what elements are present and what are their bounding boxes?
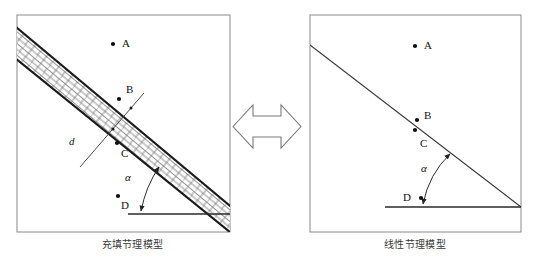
point-marker-c	[115, 141, 119, 145]
joint-thickness-node-upper	[130, 107, 133, 110]
point-marker-d	[419, 196, 423, 200]
point-label-c: C	[121, 148, 128, 159]
point-marker-a	[111, 42, 115, 46]
point-label-b: B	[424, 110, 431, 121]
point-label-a: A	[122, 38, 130, 49]
panel-connector	[233, 105, 301, 148]
dip-angle-label-alpha: α	[421, 163, 427, 174]
point-marker-b	[415, 118, 419, 122]
caption-left-panel: 充填节理模型	[60, 236, 205, 251]
caption-right-panel: 线性节理模型	[340, 236, 490, 251]
dip-angle-label-alpha: α	[125, 172, 131, 183]
double-headed-arrow-icon	[233, 105, 301, 148]
point-label-d: D	[121, 200, 129, 211]
point-marker-c	[413, 128, 417, 132]
panel-right	[310, 15, 521, 232]
point-label-c: C	[420, 138, 427, 149]
point-marker-d	[116, 194, 120, 198]
joint-thickness-label-d: d	[69, 136, 75, 147]
point-label-b: B	[126, 84, 133, 95]
point-label-d: D	[403, 192, 411, 203]
diagram-canvas	[0, 0, 534, 263]
joint-thickness-node-lower	[112, 128, 115, 131]
point-label-a: A	[424, 40, 432, 51]
point-marker-b	[117, 97, 121, 101]
point-marker-a	[413, 44, 417, 48]
figure-container: A B C D d α A B C D α 充填节理模型 线性节理模型	[0, 0, 534, 263]
